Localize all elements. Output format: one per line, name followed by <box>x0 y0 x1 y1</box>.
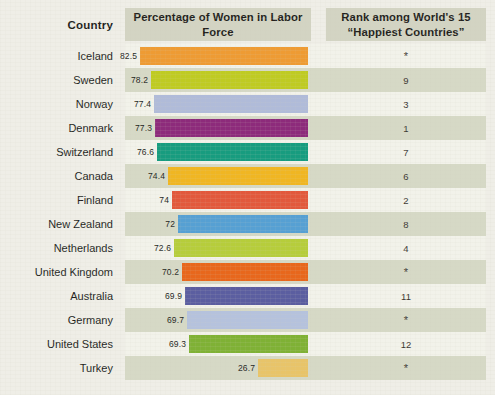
bar-cell: 69.7 <box>125 308 311 332</box>
bar-cell: 78.2 <box>125 68 311 92</box>
table-row: Norway77.43 <box>0 92 495 116</box>
rank-value: 12 <box>326 332 486 356</box>
bar-value-label: 69.9 <box>165 284 182 308</box>
rank-value: 8 <box>326 212 486 236</box>
rank-value: * <box>326 260 486 284</box>
rank-value: 6 <box>326 164 486 188</box>
country-label: Switzerland <box>0 140 121 164</box>
bar-value-label: 70.2 <box>162 260 179 284</box>
value-bar <box>140 47 308 65</box>
bar-value-label: 78.2 <box>131 68 148 92</box>
value-bar <box>178 215 308 233</box>
table-row: Switzerland76.67 <box>0 140 495 164</box>
table-row: Canada74.46 <box>0 164 495 188</box>
bar-cell: 77.4 <box>125 92 311 116</box>
table-row: United Kingdom70.2* <box>0 260 495 284</box>
table-row: Iceland82.5* <box>0 44 495 68</box>
column-header-happiness-rank: Rank among World's 15 “Happiest Countrie… <box>326 8 486 41</box>
table-row: Germany69.7* <box>0 308 495 332</box>
country-label: Sweden <box>0 68 121 92</box>
bar-cell: 74 <box>125 188 311 212</box>
country-label: United States <box>0 332 121 356</box>
table-row: Sweden78.29 <box>0 68 495 92</box>
value-bar <box>151 71 308 89</box>
value-bar <box>189 335 308 353</box>
bar-cell: 69.3 <box>125 332 311 356</box>
bar-cell: 70.2 <box>125 260 311 284</box>
country-label: Iceland <box>0 44 121 68</box>
women-labor-force-table: Country Percentage of Women in Labor For… <box>0 0 495 395</box>
rank-value: 1 <box>326 116 486 140</box>
table-row: Australia69.911 <box>0 284 495 308</box>
value-bar <box>155 119 308 137</box>
country-label: Canada <box>0 164 121 188</box>
table-row: Netherlands72.64 <box>0 236 495 260</box>
value-bar <box>154 95 308 113</box>
bar-cell: 26.7 <box>125 356 311 380</box>
country-label: Netherlands <box>0 236 121 260</box>
bar-value-label: 82.5 <box>120 44 137 68</box>
rank-value: 11 <box>326 284 486 308</box>
value-bar <box>258 359 308 377</box>
table-row: New Zealand728 <box>0 212 495 236</box>
country-label: United Kingdom <box>0 260 121 284</box>
bar-cell: 72.6 <box>125 236 311 260</box>
rank-value: 4 <box>326 236 486 260</box>
value-bar <box>172 191 308 209</box>
table-header-row: Country Percentage of Women in Labor For… <box>0 8 495 41</box>
country-label: Australia <box>0 284 121 308</box>
country-label: Norway <box>0 92 121 116</box>
rank-value: * <box>326 44 486 68</box>
bar-value-label: 69.7 <box>167 308 184 332</box>
rank-value: 7 <box>326 140 486 164</box>
bar-cell: 69.9 <box>125 284 311 308</box>
table-row: Finland742 <box>0 188 495 212</box>
country-label: New Zealand <box>0 212 121 236</box>
bar-value-label: 77.4 <box>134 92 151 116</box>
bar-value-label: 72 <box>165 212 175 236</box>
value-bar <box>157 143 308 161</box>
table-row: Turkey26.7* <box>0 356 495 380</box>
country-label: Turkey <box>0 356 121 380</box>
country-label: Denmark <box>0 116 121 140</box>
bar-cell: 76.6 <box>125 140 311 164</box>
bar-cell: 77.3 <box>125 116 311 140</box>
value-bar <box>174 239 308 257</box>
bar-value-label: 26.7 <box>238 356 255 380</box>
country-label: Germany <box>0 308 121 332</box>
bar-value-label: 72.6 <box>154 236 171 260</box>
column-header-percentage-women-labor-force: Percentage of Women in Labor Force <box>125 8 311 41</box>
bar-cell: 72 <box>125 212 311 236</box>
value-bar <box>187 311 308 329</box>
bar-value-label: 74.4 <box>148 164 165 188</box>
rank-value: 9 <box>326 68 486 92</box>
bar-cell: 74.4 <box>125 164 311 188</box>
table-row: United States69.312 <box>0 332 495 356</box>
bar-value-label: 77.3 <box>135 116 152 140</box>
bar-cell: 82.5 <box>125 44 311 68</box>
rank-value: * <box>326 308 486 332</box>
bar-value-label: 69.3 <box>169 332 186 356</box>
rank-value: 3 <box>326 92 486 116</box>
rank-value: 2 <box>326 188 486 212</box>
value-bar <box>168 167 308 185</box>
value-bar <box>182 263 308 281</box>
bar-value-label: 76.6 <box>137 140 154 164</box>
rank-value: * <box>326 356 486 380</box>
bar-value-label: 74 <box>159 188 169 212</box>
country-label: Finland <box>0 188 121 212</box>
column-header-country: Country <box>0 8 121 41</box>
table-body: Iceland82.5*Sweden78.29Norway77.43Denmar… <box>0 44 495 380</box>
value-bar <box>185 287 308 305</box>
table-row: Denmark77.31 <box>0 116 495 140</box>
